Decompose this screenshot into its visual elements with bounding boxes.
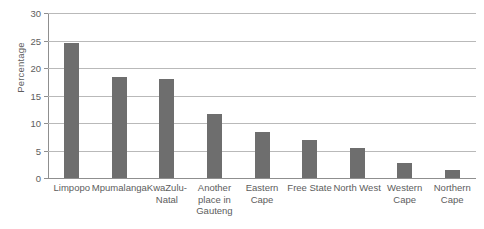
y-tick-label-15: 15 (30, 90, 41, 101)
gridline-20 (48, 68, 476, 69)
y-tick-label-5: 5 (36, 145, 41, 156)
y-tick-label-10: 10 (30, 118, 41, 129)
gridline-30 (48, 13, 476, 14)
y-tick-mark-20 (44, 68, 48, 69)
y-tick-label-25: 25 (30, 35, 41, 46)
x-axis-label-line: Gauteng (185, 205, 243, 217)
bar (302, 140, 317, 179)
x-axis-labels-group: LimpopoMpumalangaKwaZulu-NatalAnotherpla… (48, 182, 476, 229)
y-tick-label-30: 30 (30, 8, 41, 19)
y-tick-label-20: 20 (30, 63, 41, 74)
bar (445, 170, 460, 178)
y-tick-label-0: 0 (36, 173, 41, 184)
bar (64, 43, 79, 178)
bar (350, 148, 365, 178)
bar (255, 132, 270, 178)
y-tick-mark-30 (44, 13, 48, 14)
bar (207, 114, 222, 178)
plot-area: 051015202530 (48, 13, 476, 178)
x-axis-label-line: Cape (423, 194, 481, 206)
bar (159, 79, 174, 178)
x-axis-label-line: Cape (233, 194, 291, 206)
y-tick-mark-25 (44, 41, 48, 42)
x-axis-label: NorthernCape (423, 182, 481, 205)
y-tick-mark-15 (44, 96, 48, 97)
y-tick-mark-5 (44, 151, 48, 152)
gridline-25 (48, 41, 476, 42)
bar-chart-figure: Percentage 051015202530 LimpopoMpumalang… (0, 0, 484, 229)
y-tick-mark-0 (44, 178, 48, 179)
x-axis-label-line: Northern (423, 182, 481, 194)
y-tick-mark-10 (44, 123, 48, 124)
bar (112, 77, 127, 178)
bar (397, 163, 412, 178)
y-axis-title: Percentage (15, 20, 26, 116)
gridline-0 (48, 178, 476, 179)
